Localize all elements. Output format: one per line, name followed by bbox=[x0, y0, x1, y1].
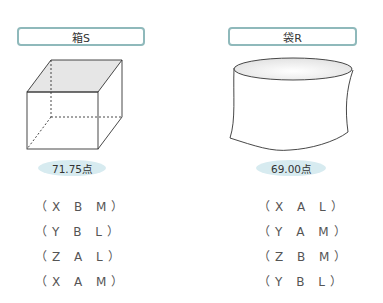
bag-r-option-2: （Y A M） bbox=[258, 222, 351, 239]
box-s-option-1: （X B M） bbox=[35, 197, 128, 214]
cube-icon bbox=[27, 60, 122, 149]
bag-r-score-badge: 69.00点 bbox=[256, 160, 326, 176]
box-s-option-3: （Z A L） bbox=[35, 247, 125, 264]
box-s-option-2: （Y B L） bbox=[35, 222, 124, 239]
box-s-option-4: （X A M） bbox=[35, 272, 128, 289]
box-s-score-badge: 71.75点 bbox=[38, 160, 106, 176]
bag-r-score: 69.00点 bbox=[271, 161, 311, 176]
bag-r-option-1: （X A L） bbox=[258, 197, 348, 214]
bag-icon bbox=[230, 58, 353, 150]
bag-r-option-3: （Z B M） bbox=[258, 247, 351, 264]
bag-r-option-4: （Y B L） bbox=[258, 272, 347, 289]
box-s-score: 71.75点 bbox=[52, 161, 92, 176]
